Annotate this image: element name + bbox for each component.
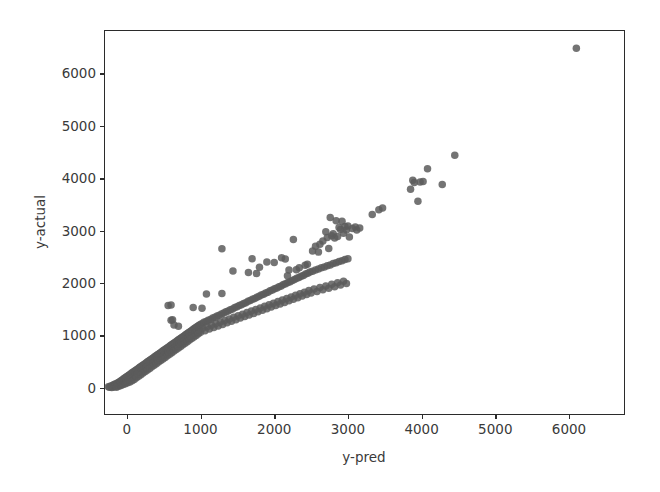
y-tick-label: 5000 [62,118,96,134]
x-tick-label: 2000 [257,421,291,437]
data-point [285,266,293,274]
x-tick-mark [569,415,570,419]
y-tick-label: 3000 [62,223,96,239]
data-point [218,245,226,253]
data-point [248,255,256,263]
y-tick-mark [100,73,104,74]
data-point [379,204,387,212]
y-tick-label: 1000 [62,327,96,343]
data-points-layer [104,30,625,415]
data-point [451,151,459,159]
data-point [290,236,298,244]
y-tick-mark [100,126,104,127]
data-point [414,198,422,206]
y-tick-mark [100,335,104,336]
data-point [407,185,415,193]
data-point [175,322,183,330]
data-point [189,304,197,312]
x-tick-label: 3000 [331,421,365,437]
x-tick-label: 6000 [552,421,586,437]
y-tick-mark [100,388,104,389]
data-point [256,264,263,272]
data-point [282,255,290,263]
data-point [245,269,253,277]
data-point [346,233,354,241]
y-tick-label: 4000 [62,170,96,186]
x-axis-label: y-pred [342,449,385,465]
x-tick-mark [201,415,202,419]
x-tick-label: 1000 [183,421,217,437]
data-point [419,178,427,186]
data-point [263,258,271,266]
data-point [343,280,351,288]
x-tick-label: 5000 [478,421,512,437]
data-point [167,301,175,309]
data-point [438,181,446,189]
data-point [315,248,323,256]
x-tick-mark [348,415,349,419]
scatter-series [105,45,580,392]
x-tick-mark [274,415,275,419]
y-tick-mark [100,178,104,179]
data-point [270,259,278,267]
data-point [424,165,432,173]
data-point [304,260,312,268]
data-point [368,211,376,219]
data-point [356,224,364,232]
y-tick-label: 6000 [62,65,96,81]
data-point [218,290,226,298]
x-tick-mark [422,415,423,419]
y-tick-mark [100,231,104,232]
scatter-plot-figure: 0100020003000400050006000 01000200030004… [0,0,660,492]
data-point [344,255,352,263]
data-point [573,45,581,53]
y-tick-label: 2000 [62,275,96,291]
data-point [198,304,206,312]
data-point [229,267,237,275]
x-tick-label: 4000 [404,421,438,437]
y-tick-mark [100,283,104,284]
y-axis-label: y-actual [32,195,48,249]
x-tick-label: 0 [123,421,132,437]
x-tick-mark [495,415,496,419]
x-tick-mark [127,415,128,419]
y-tick-label: 0 [87,380,96,396]
data-point [203,290,211,298]
data-point [325,245,333,253]
